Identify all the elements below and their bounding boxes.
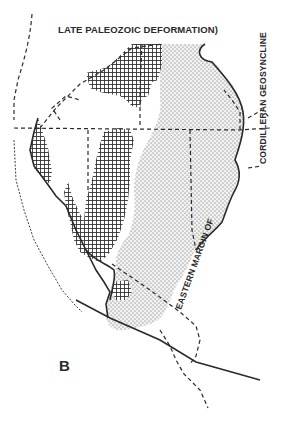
geologic-map: LATE PALEOZOIC DEFORMATION) CORDILLERAN … (0, 0, 285, 426)
label-late-paleozoic-deformation: LATE PALEOZOIC DEFORMATION) (58, 24, 218, 35)
panel-label: B (59, 357, 70, 374)
label-cordilleran-geosyncline: CORDILLERAN GEOSYNCLINE (258, 32, 268, 164)
